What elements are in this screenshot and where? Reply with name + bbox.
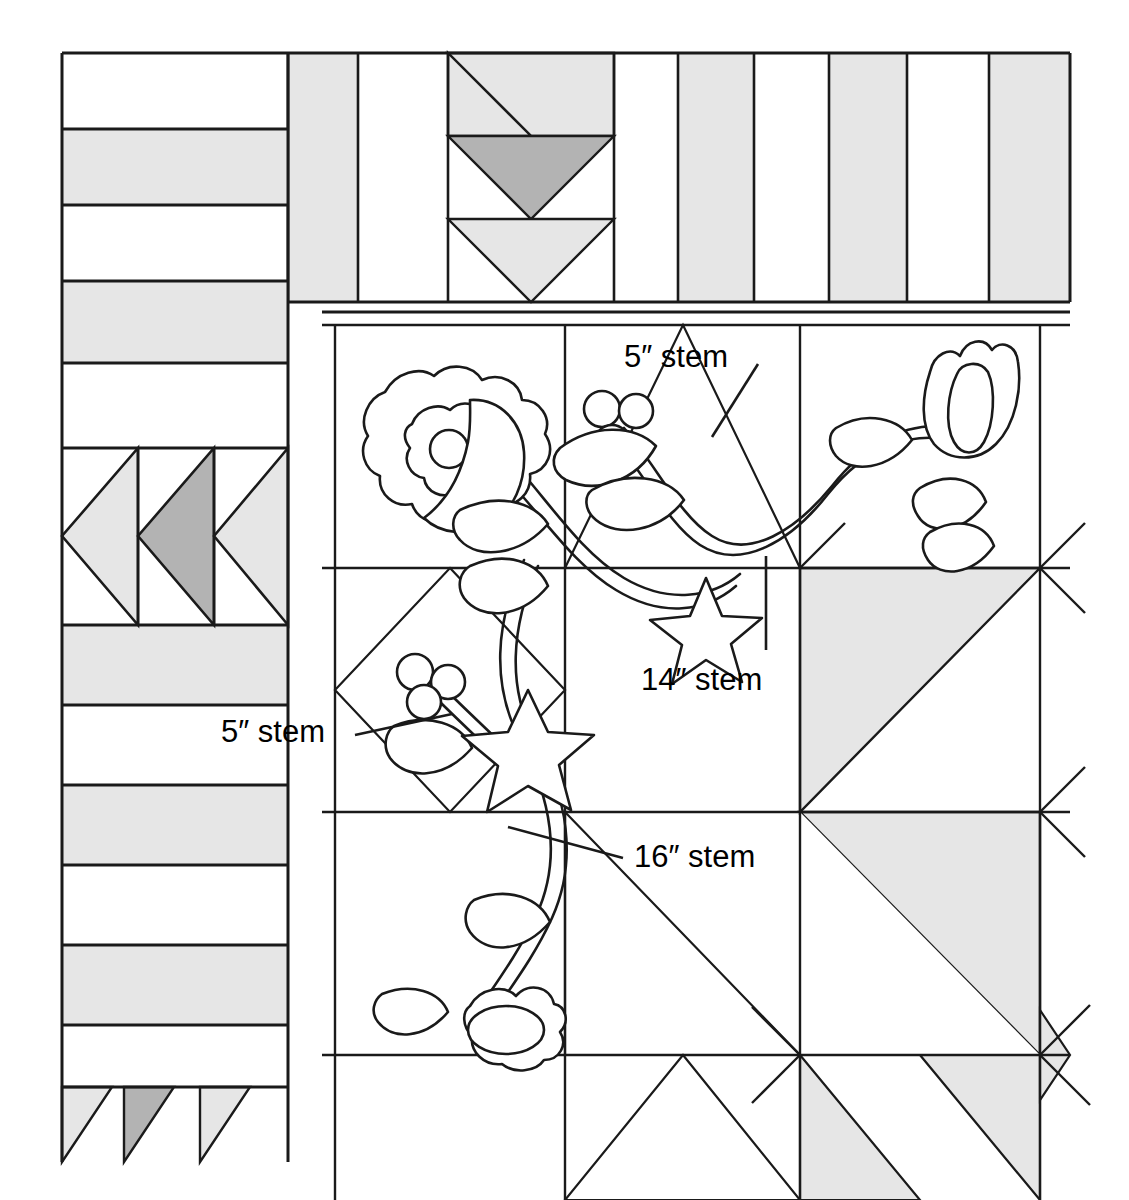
border-stripe bbox=[62, 625, 288, 705]
annotation-stem-5-top: 5″ stem bbox=[624, 341, 728, 372]
border-stripe bbox=[62, 281, 288, 363]
border-stripe bbox=[614, 53, 678, 302]
border-stripe bbox=[989, 53, 1070, 302]
border-stripe bbox=[754, 53, 829, 302]
tulip-bud-bottom bbox=[464, 988, 565, 1071]
border-stripe bbox=[288, 53, 358, 302]
border-stripe bbox=[62, 945, 288, 1025]
annotation-stem-5-left: 5″ stem bbox=[221, 716, 325, 747]
quilt-diagram-canvas bbox=[0, 0, 1129, 1200]
border-stripe bbox=[62, 785, 288, 865]
annotation-stem-14: 14″ stem bbox=[641, 664, 762, 695]
border-stripe bbox=[62, 129, 288, 205]
border-stripe bbox=[358, 53, 448, 302]
border-stripe bbox=[829, 53, 907, 302]
annotation-stem-16: 16″ stem bbox=[634, 841, 755, 872]
quilt-pattern-diagram: 5″ stem 14″ stem 5″ stem 16″ stem bbox=[0, 0, 1129, 1200]
border-stripe bbox=[907, 53, 989, 302]
border-stripe bbox=[678, 53, 754, 302]
